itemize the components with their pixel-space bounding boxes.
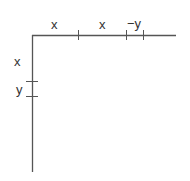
axes-drawing — [0, 0, 190, 181]
v-label-1: x — [14, 55, 21, 68]
h-label-2: x — [99, 18, 106, 31]
h-label-3: −y — [127, 17, 141, 30]
v-label-2: y — [16, 83, 23, 96]
h-label-1: x — [51, 18, 58, 31]
